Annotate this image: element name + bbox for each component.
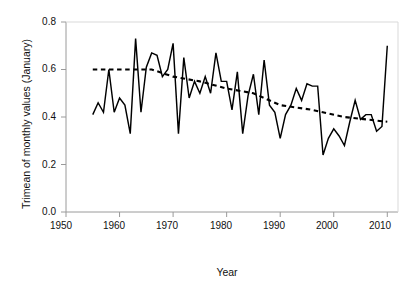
x-axis-label-text: Year [216,266,237,278]
axis-tick-marks [61,22,387,217]
x-axis-label: Year [0,266,420,278]
data-series-line [93,39,388,155]
chart-figure: 0.8 0.6 0.4 0.2 0.0 1950 1960 1970 1980 … [0,0,420,291]
plot-canvas [0,0,420,291]
y-axis-label: Trimean of monthly values (January) [20,24,32,224]
